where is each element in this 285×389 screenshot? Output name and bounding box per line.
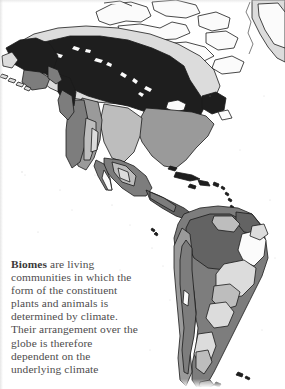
caption-body-text: are living communities in which the form…	[11, 258, 138, 375]
atlas-page: .ln{stroke:#1b1b1b;stroke-width:.8;strok…	[0, 0, 285, 389]
caption-lead-word: Biomes	[11, 258, 47, 270]
caption-block: Biomes are living communities in which t…	[11, 258, 143, 376]
caption-paragraph: Biomes are living communities in which t…	[11, 258, 143, 376]
